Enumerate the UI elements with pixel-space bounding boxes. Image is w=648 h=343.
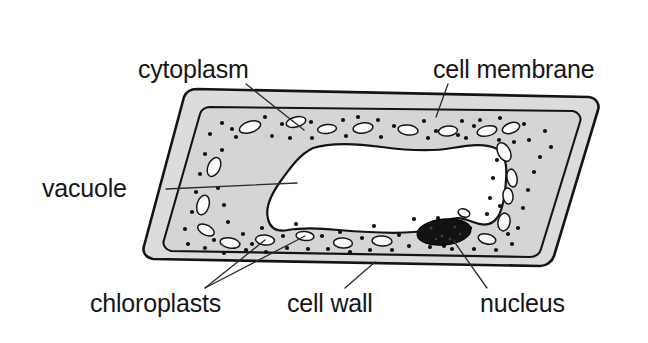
label-vacuole: vacuole — [42, 174, 127, 202]
label-chloroplasts: chloroplasts — [90, 289, 221, 317]
chloroplast — [333, 237, 353, 248]
cell-diagram-svg: cytoplasm cell membrane vacuole chloropl… — [0, 0, 648, 343]
chloroplast — [372, 235, 392, 246]
vacuole-shape — [267, 144, 506, 233]
label-cytoplasm: cytoplasm — [138, 55, 249, 83]
label-nucleus: nucleus — [480, 289, 565, 317]
label-cell-wall: cell wall — [287, 289, 373, 317]
leader-line-cell-wall — [345, 262, 375, 288]
label-cell-membrane: cell membrane — [433, 55, 594, 83]
plant-cell-diagram: cytoplasm cell membrane vacuole chloropl… — [0, 0, 648, 343]
